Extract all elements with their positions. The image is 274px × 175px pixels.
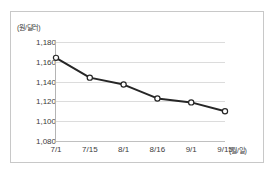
x-tick-label: 8/1 [118,145,129,154]
y-axis-unit-label: (원/달러) [17,22,40,32]
y-tick-label: 1,100 [14,117,56,126]
data-point [189,100,194,105]
x-axis-unit-label: (월/일) [229,145,247,155]
chart-figure: (원/달러) 1,180 1,160 1,140 1,120 1,100 1,0… [10,11,264,163]
x-tick-label: 8/16 [150,145,166,154]
plot-area [56,42,225,141]
x-axis-baseline [56,141,225,142]
y-tick-label: 1,120 [14,97,56,106]
x-tick-label: 9/1 [186,145,197,154]
x-tick-label: 7/1 [50,145,61,154]
data-point [87,75,92,80]
y-tick-label: 1,160 [14,57,56,66]
data-point [53,55,58,60]
y-tick-label: 1,180 [14,38,56,47]
x-tick-label: 7/15 [82,145,98,154]
y-tick-label: 1,140 [14,77,56,86]
data-point [155,96,160,101]
line-series [56,42,225,141]
data-point [121,82,126,87]
x-axis-tick-labels: 7/1 7/15 8/1 8/16 9/1 9/15 [56,145,225,159]
y-axis-tick-labels: 1,180 1,160 1,140 1,120 1,100 1,080 [11,42,56,141]
series-line [56,58,225,111]
data-point [222,109,227,114]
